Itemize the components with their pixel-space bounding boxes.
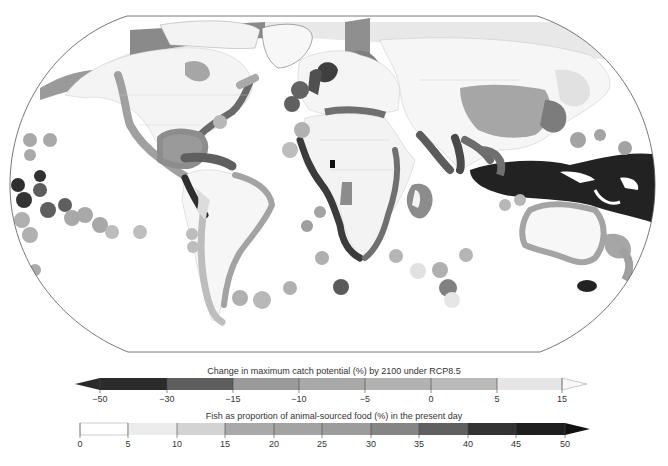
catch-tick: −5 [360,394,370,404]
catch-potential-legend: Change in maximum catch potential (%) by… [0,362,668,407]
catch-tick: −10 [291,394,306,404]
catch-tick: −30 [159,394,174,404]
fish-proportion-legend: Fish as proportion of animal-sourced foo… [0,407,668,462]
fish-tick: 50 [560,439,570,449]
fish-tick: 5 [125,439,130,449]
catch-tick: 0 [428,394,433,404]
fish-tick: 15 [220,439,230,449]
catch-legend-title: Change in maximum catch potential (%) by… [0,366,668,376]
fish-tick: 20 [269,439,279,449]
fish-tick: 40 [463,439,473,449]
fish-tick: 10 [172,439,182,449]
fish-tick: 35 [414,439,424,449]
fish-legend-title: Fish as proportion of animal-sourced foo… [0,411,668,421]
fish-tick: 30 [366,439,376,449]
world-map [0,0,668,360]
catch-tick: 15 [557,394,567,404]
fish-tick: 25 [317,439,327,449]
catch-tick: −50 [92,394,107,404]
catch-tick: 5 [494,394,499,404]
fish-tick: 45 [511,439,521,449]
fish-tick: 0 [77,439,82,449]
catch-tick: −15 [225,394,240,404]
